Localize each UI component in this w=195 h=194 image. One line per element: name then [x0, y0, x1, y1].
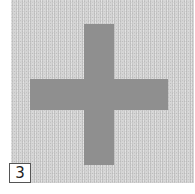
number-label: 3	[9, 163, 31, 183]
plus-horizontal-bar	[30, 79, 168, 110]
